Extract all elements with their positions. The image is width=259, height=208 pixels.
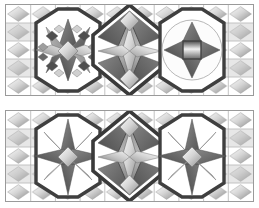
- upper-panel: [5, 4, 254, 96]
- upper-panel-artwork: [6, 5, 253, 95]
- upper-right-motif: [160, 9, 224, 91]
- lower-right-motif: [158, 115, 226, 197]
- page-root: [0, 0, 259, 208]
- upper-left-motif: [36, 9, 100, 91]
- lower-panel: [5, 110, 254, 202]
- lower-panel-artwork: [6, 111, 253, 201]
